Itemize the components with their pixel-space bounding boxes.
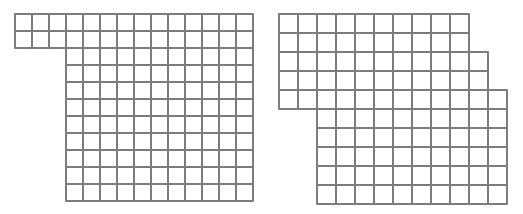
grid-cell [373,70,394,91]
grid-cell [487,89,508,110]
grid-cell [335,32,356,53]
grid-cell [411,89,432,110]
grid-cell [392,70,413,91]
grid-cell [487,184,508,205]
grid-cell [373,165,394,186]
grid-cell [335,127,356,148]
grid-cell [316,13,337,34]
grid-cell [449,51,470,72]
grid-cell [335,146,356,167]
grid-cell [468,165,489,186]
grid-cell [430,51,451,72]
grid-cell [449,146,470,167]
grid-cell [316,184,337,205]
grid-cell [335,184,356,205]
grid-cell [411,165,432,186]
grid-cell [354,146,375,167]
grid-cell [430,89,451,110]
grid-cell [411,108,432,129]
grid-cell [468,108,489,129]
grid-cell [278,70,299,91]
grid-cell [335,89,356,110]
grid-cell [449,165,470,186]
grid-cell [373,184,394,205]
grid-cell [392,165,413,186]
grid-cell [278,51,299,72]
grid-cell [430,32,451,53]
grid-cell [468,146,489,167]
grid-cell [354,13,375,34]
grid-cell [449,127,470,148]
grid-cell [373,89,394,110]
grid-cell [278,32,299,53]
grid-cell [449,70,470,91]
grid-cell [297,89,318,110]
grid-cell [373,108,394,129]
grid-cell [373,13,394,34]
grid-cell [354,184,375,205]
grid-cell [316,89,337,110]
grid-cell [297,70,318,91]
grid-cell [411,127,432,148]
grid-cell [411,13,432,34]
grid-cell [411,70,432,91]
grid-cell [430,127,451,148]
grid-cell [392,127,413,148]
grid-cell [430,184,451,205]
grid-cell [468,127,489,148]
grid-cell [392,32,413,53]
grid-cell [411,51,432,72]
grid-cell [373,51,394,72]
grid-cell [335,108,356,129]
grid-cell [468,184,489,205]
grid-cell [430,70,451,91]
grid-cell [354,127,375,148]
grid-cell [297,13,318,34]
grid-cell [430,165,451,186]
grid-cell [354,32,375,53]
grid-cell [316,146,337,167]
grid-cell [316,32,337,53]
grid-cell [430,108,451,129]
grid-cell [354,51,375,72]
grid-cell [430,146,451,167]
grid-cell [392,51,413,72]
grid-cell [278,13,299,34]
grid-cell [354,70,375,91]
grid-cell [373,32,394,53]
grid-cell [392,184,413,205]
grid-cell [449,108,470,129]
grid-cell [297,51,318,72]
grid-cell [392,108,413,129]
grid-cell [411,146,432,167]
grid-cell [316,51,337,72]
grid-cell [411,32,432,53]
grid-cell [335,70,356,91]
grid-cell [335,165,356,186]
grid-cell [487,127,508,148]
grid-cell [430,13,451,34]
grid-cell [235,183,254,202]
grid-cell [373,146,394,167]
grid-cell [316,165,337,186]
grid-cell [468,51,489,72]
grid-cell [278,89,299,110]
grid-cell [316,108,337,129]
grid-cell [354,108,375,129]
grid-cell [392,146,413,167]
grid-cell [316,127,337,148]
grid-cell [335,13,356,34]
grid-cell [468,89,489,110]
grid-cell [449,89,470,110]
grid-cell [487,165,508,186]
grid-cell [487,146,508,167]
grid-cell [316,70,337,91]
grid-cell [297,32,318,53]
grid-cell [335,51,356,72]
grid-cell [449,13,470,34]
grid-cell [354,165,375,186]
grid-cell [392,89,413,110]
grid-cell [449,184,470,205]
grid-cell [354,89,375,110]
grid-cell [449,32,470,53]
